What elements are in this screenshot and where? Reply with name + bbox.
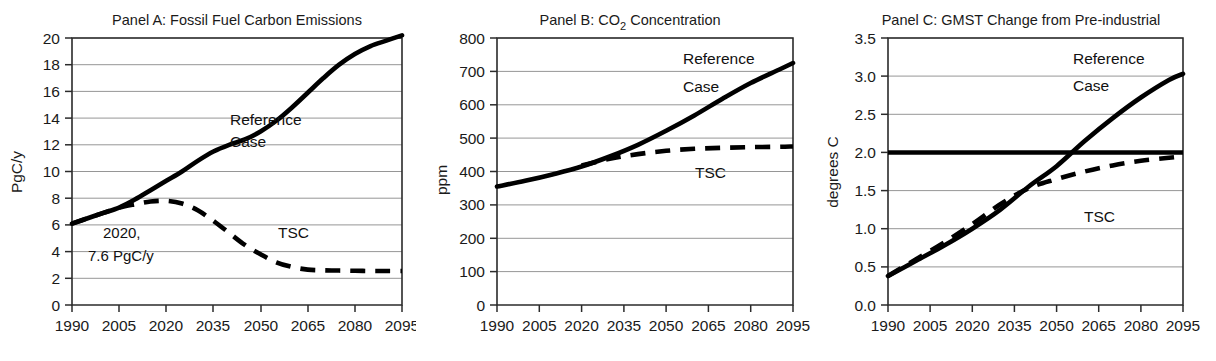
panel-b: Panel B: CO2 Concentration	[425, 0, 825, 361]
y-tick-label: 10	[43, 163, 61, 180]
x-tick-label: 2020	[564, 317, 599, 334]
y-tick-label: 4	[51, 243, 60, 260]
panel-b-y-axis-label: ppm	[433, 165, 450, 195]
x-tick-label: 1990	[871, 317, 906, 334]
y-tick-label: 18	[43, 56, 60, 73]
x-tick-label: 2095	[385, 317, 416, 334]
x-tick-label: 2080	[733, 317, 768, 334]
x-tick-label: 2050	[649, 317, 684, 334]
panel-c-tsc-label: TSC	[1084, 208, 1115, 225]
y-tick-label: 2	[51, 270, 60, 287]
x-tick-label: 2005	[522, 317, 556, 334]
panel-b-tsc-label: TSC	[695, 164, 726, 181]
y-tick-label: 700	[459, 63, 485, 80]
panel-a-x-tick-labels: 1990 2005 2020 2035 2050 2065 2080 2095	[55, 317, 416, 334]
panel-a-title: Panel A: Fossil Fuel Carbon Emissions	[112, 12, 362, 28]
x-tick-label: 1990	[55, 317, 90, 334]
y-tick-label: 600	[459, 96, 485, 113]
panel-b-title: Panel B: CO2 Concentration	[539, 12, 720, 32]
y-tick-label: 1.5	[854, 182, 876, 199]
x-tick-label: 2065	[1081, 317, 1115, 334]
y-tick-label: 16	[43, 83, 60, 100]
panel-c-frame	[888, 38, 1183, 305]
y-tick-label: 20	[43, 30, 61, 47]
x-tick-label: 2065	[691, 317, 725, 334]
x-tick-label: 2005	[913, 317, 947, 334]
y-tick-label: 800	[459, 30, 485, 47]
y-tick-label: 400	[459, 163, 485, 180]
panel-a-annotation-line2: 7.6 PgC/y	[88, 247, 154, 264]
x-tick-label: 2035	[196, 317, 230, 334]
y-tick-label: 300	[459, 196, 485, 213]
x-tick-label: 2065	[291, 317, 325, 334]
x-tick-label: 2005	[102, 317, 136, 334]
panel-a-x-ticks	[72, 305, 402, 312]
panel-b-title-suffix: Concentration	[626, 12, 720, 28]
y-tick-label: 6	[51, 216, 60, 233]
y-tick-label: 8	[51, 190, 60, 207]
y-tick-label: 1.0	[854, 220, 876, 237]
panel-c-tsc-line	[888, 156, 1183, 276]
panel-a-annotation-line1: 2020,	[103, 224, 141, 241]
y-tick-label: 12	[43, 136, 60, 153]
panel-a-y-tick-labels: 20 18 16 14 12 10 8 6 4 2 0	[43, 30, 61, 314]
x-tick-label: 2080	[1124, 317, 1159, 334]
panel-b-y-tick-labels: 800 700 600 500 400 300 200 100 0	[459, 30, 485, 314]
panel-a-y-ticks	[65, 38, 72, 305]
y-tick-label: 14	[43, 110, 61, 127]
x-tick-label: 2080	[338, 317, 373, 334]
panel-b-reference-label-line2: Case	[683, 78, 719, 95]
y-tick-label: 500	[459, 130, 485, 147]
panel-b-reference-label-line1: Reference	[683, 50, 755, 67]
panel-b-y-ticks	[490, 38, 497, 305]
y-tick-label: 3.5	[854, 30, 876, 47]
y-tick-label: 200	[459, 230, 485, 247]
y-tick-label: 0.5	[854, 258, 876, 275]
panel-a-tsc-label: TSC	[278, 224, 309, 241]
panel-c-reference-label-line2: Case	[1073, 77, 1109, 94]
panel-b-x-tick-labels: 1990 2005 2020 2035 2050 2065 2080 2095	[480, 317, 810, 334]
y-tick-label: 0	[476, 297, 485, 314]
panel-c-reference-label-line1: Reference	[1073, 50, 1145, 67]
y-tick-label: 2.0	[854, 144, 876, 161]
x-tick-label: 2035	[607, 317, 641, 334]
panel-c: Panel C: GMST Change from Pre-industrial…	[816, 0, 1216, 361]
y-tick-label: 100	[459, 263, 485, 280]
panel-c-y-ticks	[881, 38, 888, 305]
y-tick-label: 2.5	[854, 106, 876, 123]
panel-c-x-tick-labels: 1990 2005 2020 2035 2050 2065 2080 2095	[871, 317, 1200, 334]
x-tick-label: 2095	[1166, 317, 1200, 334]
x-tick-label: 2050	[1039, 317, 1074, 334]
panel-b-x-ticks	[497, 305, 793, 312]
panel-b-reference-case-line	[497, 63, 793, 186]
y-tick-label: 3.0	[854, 68, 876, 85]
panel-a-svg: Panel A: Fossil Fuel Carbon Emissions	[0, 0, 416, 361]
panel-b-title-prefix: Panel B: CO	[539, 12, 620, 28]
panel-c-x-ticks	[888, 305, 1183, 312]
x-tick-label: 2020	[955, 317, 990, 334]
x-tick-label: 2050	[244, 317, 279, 334]
panel-c-title: Panel C: GMST Change from Pre-industrial	[882, 12, 1161, 28]
panel-c-y-tick-labels: 3.5 3.0 2.5 2.0 1.5 1.0 0.5 0.0	[854, 30, 876, 314]
y-tick-label: 0.0	[854, 297, 876, 314]
panel-c-y-axis-label: degrees C	[824, 136, 841, 208]
panel-c-reference-case-line	[888, 74, 1183, 276]
panel-a-reference-label-line1: Reference	[230, 111, 302, 128]
panel-a: Panel A: Fossil Fuel Carbon Emissions	[0, 0, 416, 361]
x-tick-label: 2095	[776, 317, 810, 334]
y-tick-label: 0	[51, 297, 60, 314]
panel-b-tsc-line	[582, 146, 793, 165]
x-tick-label: 1990	[480, 317, 515, 334]
panel-a-reference-label-line2: Case	[230, 133, 266, 150]
panel-c-svg: Panel C: GMST Change from Pre-industrial…	[816, 0, 1216, 361]
x-tick-label: 2035	[997, 317, 1031, 334]
x-tick-label: 2020	[149, 317, 184, 334]
panel-a-y-axis-label: PgC/y	[8, 151, 25, 193]
panel-a-reference-case-line	[72, 35, 402, 223]
panel-b-svg: Panel B: CO2 Concentration	[425, 0, 825, 361]
panel-a-gridlines	[72, 38, 402, 278]
